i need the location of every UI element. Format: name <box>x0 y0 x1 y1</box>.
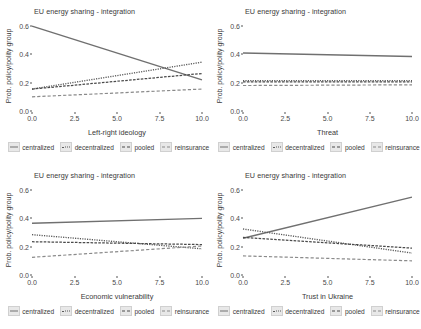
legend-item-reinsurance[interactable]: reinsurance <box>371 142 420 152</box>
legend-swatch-solid-icon <box>8 142 20 152</box>
legend-swatch-solid-icon <box>218 306 230 316</box>
legend: centralizeddecentralizedpooledreinsuranc… <box>10 306 207 316</box>
legend-item-decentralized[interactable]: decentralized <box>271 306 325 316</box>
legend-swatch-dotted-icon <box>271 142 283 152</box>
x-tick-label: 7.5 <box>155 279 165 286</box>
y-tick-label: 0.0 <box>19 272 29 279</box>
legend-item-centralized[interactable]: centralized <box>8 142 54 152</box>
legend-label: reinsurance <box>385 308 419 315</box>
legend-swatch-dashdot-icon <box>120 142 132 152</box>
legend-swatch-dashed-icon <box>371 306 383 316</box>
legend-swatch-dashdot-icon <box>120 306 132 316</box>
panel-threat: EU energy sharing - integration Prob. po… <box>211 0 421 164</box>
plot-area: 0.00.20.40.60.02.55.07.510.0 <box>243 19 412 111</box>
panel-title: EU energy sharing - integration <box>34 171 135 180</box>
legend-item-decentralized[interactable]: decentralized <box>271 142 325 152</box>
x-tick-label: 7.5 <box>155 115 165 122</box>
series-line-centralized <box>32 26 202 80</box>
legend-label: centralized <box>22 308 54 315</box>
x-tick-mark <box>412 112 413 114</box>
x-tick-mark <box>159 112 160 114</box>
legend-label: decentralized <box>75 144 114 151</box>
legend-item-pooled[interactable]: pooled <box>330 306 364 316</box>
legend-label: reinsurance <box>385 144 419 151</box>
y-tick-label: 0.2 <box>19 79 29 86</box>
legend-item-decentralized[interactable]: decentralized <box>60 306 114 316</box>
legend-label: reinsurance <box>175 308 209 315</box>
x-tick-mark <box>32 112 33 114</box>
legend-item-decentralized[interactable]: decentralized <box>60 142 114 152</box>
x-tick-label: 10.0 <box>405 115 419 122</box>
figure-panel-grid: EU energy sharing - integration Prob. po… <box>0 0 421 329</box>
x-tick-mark <box>243 112 244 114</box>
legend-label: pooled <box>345 144 365 151</box>
y-tick-label: 0.4 <box>19 215 29 222</box>
panel-title: EU energy sharing - integration <box>34 7 135 16</box>
y-tick-label: 0.6 <box>19 187 29 194</box>
y-tick-label: 0.2 <box>230 243 240 250</box>
x-tick-mark <box>117 276 118 278</box>
legend-label: centralized <box>233 308 265 315</box>
y-tick-label: 0.0 <box>230 272 240 279</box>
plot-area: 0.00.20.40.60.02.55.07.510.0 <box>32 183 202 275</box>
legend-item-centralized[interactable]: centralized <box>218 306 264 316</box>
x-tick-label: 10.0 <box>195 115 209 122</box>
y-tick-label: 0.4 <box>19 51 29 58</box>
x-tick-label: 10.0 <box>195 279 209 286</box>
x-tick-mark <box>243 276 244 278</box>
x-tick-mark <box>327 112 328 114</box>
legend-label: decentralized <box>285 308 324 315</box>
x-tick-mark <box>369 276 370 278</box>
y-tick-label: 0.4 <box>230 51 240 58</box>
y-tick-label: 0.2 <box>19 243 29 250</box>
legend-item-reinsurance[interactable]: reinsurance <box>160 142 209 152</box>
x-tick-label: 2.5 <box>70 279 80 286</box>
legend-label: decentralized <box>75 308 114 315</box>
x-tick-mark <box>74 276 75 278</box>
legend-item-reinsurance[interactable]: reinsurance <box>160 306 209 316</box>
series-line-pooled <box>243 237 412 248</box>
x-tick-mark <box>117 112 118 114</box>
x-tick-mark <box>327 276 328 278</box>
legend-swatch-dashed-icon <box>160 306 172 316</box>
x-tick-label: 2.5 <box>70 115 80 122</box>
legend-item-centralized[interactable]: centralized <box>218 142 264 152</box>
y-tick-label: 0.0 <box>230 108 240 115</box>
x-tick-label: 5.0 <box>112 115 122 122</box>
panel-economic-vulnerability: EU energy sharing - integration Prob. po… <box>0 164 211 329</box>
x-axis-label: Left-right ideology <box>32 128 202 137</box>
series-line-reinsurance <box>243 85 412 86</box>
legend-label: centralized <box>233 144 265 151</box>
x-axis-label: Trust in Ukraine <box>243 292 412 301</box>
x-tick-label: 2.5 <box>280 279 290 286</box>
legend-item-reinsurance[interactable]: reinsurance <box>371 306 420 316</box>
x-tick-mark <box>285 276 286 278</box>
legend-label: decentralized <box>285 144 324 151</box>
x-tick-mark <box>412 276 413 278</box>
x-axis-label: Economic vulnerability <box>32 292 202 301</box>
x-tick-label: 7.5 <box>365 279 375 286</box>
legend-label: pooled <box>134 308 154 315</box>
x-tick-label: 0.0 <box>27 115 37 122</box>
legend-item-pooled[interactable]: pooled <box>120 306 154 316</box>
legend-item-pooled[interactable]: pooled <box>120 142 154 152</box>
x-tick-label: 10.0 <box>405 279 419 286</box>
legend-item-centralized[interactable]: centralized <box>8 306 54 316</box>
series-lines <box>32 19 202 111</box>
legend-swatch-solid-icon <box>8 306 20 316</box>
y-axis-label: Prob. policy/polity group <box>214 184 224 276</box>
legend-swatch-solid-icon <box>218 142 230 152</box>
x-tick-label: 5.0 <box>323 279 333 286</box>
y-axis-label: Prob. policy/polity group <box>3 184 13 276</box>
legend-swatch-dotted-icon <box>60 142 72 152</box>
legend-item-pooled[interactable]: pooled <box>330 142 364 152</box>
panel-title: EU energy sharing - integration <box>245 171 346 180</box>
y-tick-label: 0.6 <box>230 187 240 194</box>
series-lines <box>243 19 412 111</box>
x-tick-mark <box>159 276 160 278</box>
x-tick-mark <box>285 112 286 114</box>
legend: centralizeddecentralizedpooledreinsuranc… <box>221 306 417 316</box>
legend-swatch-dotted-icon <box>60 306 72 316</box>
legend-swatch-dashdot-icon <box>330 142 342 152</box>
panel-trust-in-ukraine: EU energy sharing - integration Prob. po… <box>211 164 421 329</box>
